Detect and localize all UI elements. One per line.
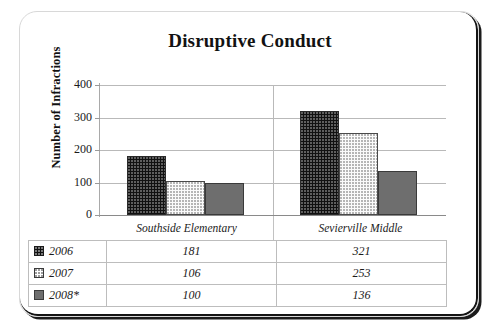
- bar-2006-sevierville[interactable]: [300, 111, 339, 215]
- bar-2006-southside[interactable]: [127, 156, 166, 215]
- tick-mark-400: [95, 85, 100, 86]
- y-tick-label-100: 100: [74, 175, 92, 190]
- cell-2006-southside: 181: [107, 241, 277, 263]
- cell-2008-southside: 100: [107, 285, 277, 307]
- bar-2008-southside[interactable]: [205, 183, 244, 216]
- y-tick-label-0: 0: [86, 207, 92, 222]
- legend-label-2008: 2008*: [49, 288, 79, 302]
- tick-mark-200: [95, 150, 100, 151]
- cell-2007-southside: 106: [107, 263, 277, 285]
- cell-2006-sevierville: 321: [277, 241, 447, 263]
- legend-item-2008: 2008*: [29, 285, 107, 307]
- bar-2008-sevierville[interactable]: [378, 171, 417, 215]
- legend-label-2007: 2007: [49, 266, 73, 280]
- category-divider: [273, 85, 274, 215]
- page-title: Disruptive Conduct: [20, 30, 479, 52]
- plot-area: 400 300 200 100 0: [100, 85, 446, 215]
- category-label-row: Southside Elementary Sevierville Middle: [100, 216, 447, 240]
- tick-mark-100: [95, 183, 100, 184]
- black-dotted-swatch-icon: [34, 246, 44, 256]
- legend-label-2006: 2006: [49, 244, 73, 258]
- legend-item-2007: 2007: [29, 263, 107, 285]
- y-tick-label-400: 400: [74, 77, 92, 92]
- data-table: 2006 181 321 2007 106 253 2008* 100 136: [28, 240, 447, 307]
- chart-card: Disruptive Conduct Number of Infractions…: [19, 11, 479, 317]
- bar-2007-sevierville[interactable]: [339, 133, 378, 215]
- white-dotted-swatch-icon: [34, 268, 44, 278]
- table-row: 2007 106 253: [29, 263, 447, 285]
- category-label-sevierville: Sevierville Middle: [274, 216, 447, 240]
- table-row: 2008* 100 136: [29, 285, 447, 307]
- y-axis-title: Number of Infractions: [49, 33, 64, 183]
- bar-2007-southside[interactable]: [166, 181, 205, 215]
- cell-2008-sevierville: 136: [277, 285, 447, 307]
- y-tick-label-200: 200: [74, 142, 92, 157]
- category-label-southside: Southside Elementary: [100, 216, 274, 240]
- gray-solid-swatch-icon: [34, 290, 44, 300]
- table-row: 2006 181 321: [29, 241, 447, 263]
- legend-item-2006: 2006: [29, 241, 107, 263]
- tick-mark-300: [95, 118, 100, 119]
- y-tick-label-300: 300: [74, 110, 92, 125]
- cell-2007-sevierville: 253: [277, 263, 447, 285]
